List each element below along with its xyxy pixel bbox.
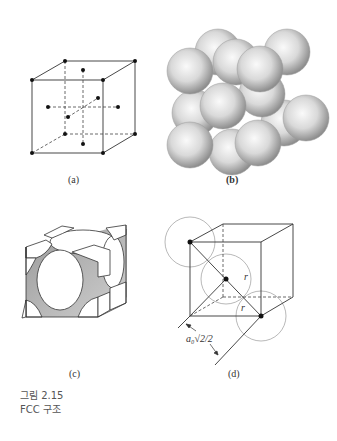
radius-label-2: r <box>241 302 245 313</box>
figure-title: FCC 구조 <box>20 403 63 417</box>
panel-d-face-diagonal <box>0 0 337 441</box>
figure-number: 그림 2.15 <box>20 389 63 403</box>
figure-caption: 그림 2.15 FCC 구조 <box>20 389 63 417</box>
radius-label-1: r <box>244 271 248 282</box>
dimension-label: a₀√2/2 <box>186 333 213 344</box>
panel-d-label: (d) <box>228 368 240 379</box>
